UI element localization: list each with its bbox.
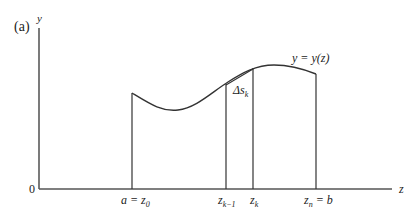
segment-label: Δsk <box>232 83 249 99</box>
tick-label-z-n-b: zn = b <box>303 193 333 209</box>
curve-y-of-z <box>132 65 316 110</box>
tick-label-a-z0: a = z0 <box>121 193 150 209</box>
arc-length-diagram: (a) y z 0 y = y(z) Δsk a = z0 zk−1 zk zn… <box>0 0 418 213</box>
curve-label: y = y(z) <box>291 51 329 65</box>
z-axis-label: z <box>398 182 404 196</box>
origin-label: 0 <box>29 182 35 196</box>
y-axis-label: y <box>36 12 42 24</box>
panel-label: (a) <box>14 19 30 35</box>
tick-label-z-k: zk <box>249 193 259 209</box>
tick-label-z-k-minus-1: zk−1 <box>217 193 236 209</box>
